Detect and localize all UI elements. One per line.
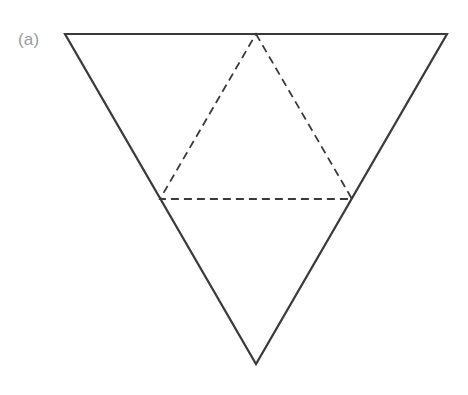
panel-label-a: (a) [18, 30, 39, 50]
figure-panel: (a) [0, 0, 468, 395]
triangle-diagram-canvas [0, 0, 468, 395]
inner-dashed-triangle [160, 34, 352, 199]
